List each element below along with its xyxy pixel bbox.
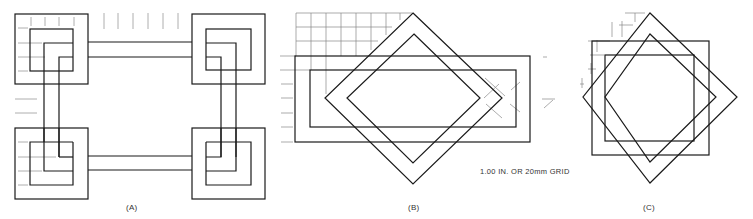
panel-a <box>15 13 265 199</box>
diagram-canvas <box>0 0 753 219</box>
grid-scale-note: 1.00 IN. OR 20mm GRID <box>480 167 570 176</box>
panel-c-label: (C) <box>643 203 655 212</box>
panel-b-label: (B) <box>408 203 420 212</box>
panel-a-guide-lines <box>15 13 178 185</box>
panel-a-label: (A) <box>126 203 138 212</box>
panel-c-grid <box>580 13 645 88</box>
panel-c <box>580 13 737 183</box>
panel-b <box>280 13 555 184</box>
panel-b-grid <box>280 13 555 142</box>
